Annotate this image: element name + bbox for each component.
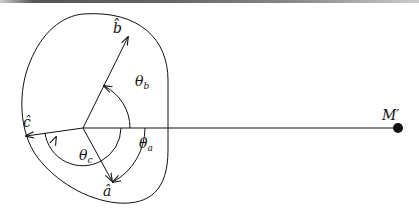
label-m-prime: M′ — [381, 107, 400, 123]
angle-arc-theta-b — [104, 86, 130, 128]
angle-arc-theta-c-head — [51, 137, 56, 148]
label-c-hat: ĉ — [23, 114, 31, 130]
region-outline — [22, 14, 168, 204]
label-theta-b: θb — [135, 73, 149, 91]
vector-b-arrow — [83, 37, 128, 128]
label-theta-c: θc — [79, 147, 92, 165]
point-m-prime — [393, 123, 403, 133]
vector-c-arrow — [26, 128, 83, 136]
label-b-hat: b̂ — [113, 18, 122, 36]
label-theta-a: θa — [139, 135, 153, 153]
label-a-hat: â — [103, 183, 111, 199]
vector-diagram: b̂ ĉ â θb θa θc M′ — [0, 0, 419, 212]
